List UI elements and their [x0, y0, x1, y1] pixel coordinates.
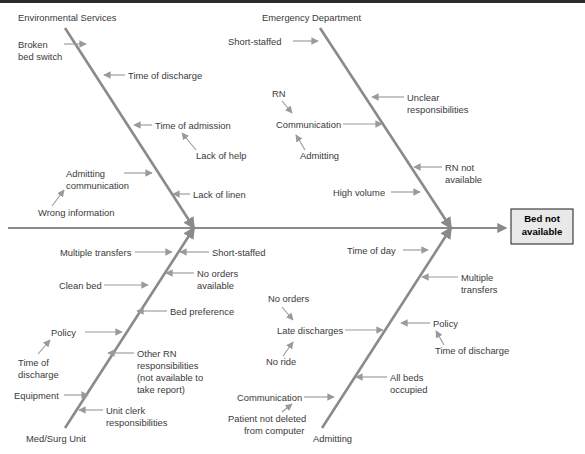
cause-ed-rn: RN [272, 88, 286, 99]
cause-es-admitting-communication-line2: communication [66, 180, 129, 191]
connector-es-lack-of-help [182, 133, 196, 150]
cause-ms-time-of-discharge-line1: Time of [18, 357, 49, 368]
cause-ms-bed-preference: Bed preference [170, 306, 234, 317]
cause-es-wrong-information: Wrong information [38, 207, 114, 218]
cause-ed-unclear-responsibilities-line1: Unclear [407, 92, 439, 103]
cause-ed-high-volume: High volume [333, 187, 385, 198]
cause-ms-multiple-transfers: Multiple transfers [60, 247, 132, 258]
cause-ms-unit-clerk-line1: Unit clerk [106, 405, 145, 416]
cause-ms-policy: Policy [51, 327, 76, 338]
cause-ed-rn-not-available-line1: RN not [445, 162, 475, 173]
connector-ad-patient-not-deleted [282, 404, 292, 412]
fishbone-diagram: Bed not available Environmental Services… [0, 0, 585, 454]
cause-ms-other-rn-line1: Other RN [137, 348, 177, 359]
connector-ed-admitting [296, 135, 305, 150]
effect-label-line2: available [522, 226, 563, 237]
cause-es-broken-bed-switch-line1: Broken [18, 39, 48, 50]
cause-ms-no-orders-available-line1: No orders [197, 268, 238, 279]
cause-ad-policy: Policy [433, 318, 458, 329]
effect-label-line1: Bed not [524, 213, 561, 224]
cause-ad-all-beds-occupied-line1: All beds [390, 372, 424, 383]
cause-ad-patient-not-deleted-line2: from computer [244, 425, 304, 436]
bone-med-surg-unit [65, 228, 194, 428]
connector-ad-no-orders [282, 307, 293, 320]
fishbone-canvas: Bed not available Environmental Services… [0, 0, 585, 454]
category-label-admitting: Admitting [313, 433, 352, 444]
connector-ms-time-of-discharge [38, 340, 50, 354]
cause-ms-other-rn-line4: take report) [137, 384, 185, 395]
cause-ms-unit-clerk-line2: responsibilities [106, 417, 168, 428]
cause-es-lack-of-linen: Lack of linen [193, 189, 246, 200]
cause-ms-equipment: Equipment [14, 390, 59, 401]
cause-es-admitting-communication-line1: Admitting [66, 168, 105, 179]
cause-ed-admitting: Admitting [300, 150, 339, 161]
category-label-emergency-department: Emergency Department [262, 12, 361, 23]
cause-ms-other-rn-line3: (not available to [137, 372, 203, 383]
cause-ad-time-of-day: Time of day [347, 245, 396, 256]
connector-ad-time-of-discharge [436, 331, 444, 345]
cause-ad-no-ride: No ride [266, 356, 296, 367]
cause-ms-no-orders-available-line2: available [197, 280, 234, 291]
cause-ed-short-staffed: Short-staffed [228, 36, 282, 47]
connector-ed-rn [282, 101, 292, 113]
cause-ad-all-beds-occupied-line2: occupied [390, 384, 428, 395]
cause-ad-communication: Communication [237, 392, 302, 403]
cause-ad-patient-not-deleted-line1: Patient not deleted [228, 413, 306, 424]
cause-ms-clean-bed: Clean bed [59, 280, 102, 291]
cause-ad-late-discharges: Late discharges [277, 325, 344, 336]
cause-ad-time-of-discharge: Time of discharge [435, 345, 509, 356]
cause-es-lack-of-help: Lack of help [196, 150, 247, 161]
scan-edge-band [0, 0, 585, 3]
connector-es-wrong-information [52, 190, 64, 206]
category-label-med-surg-unit: Med/Surg Unit [26, 433, 86, 444]
cause-ed-rn-not-available-line2: available [445, 174, 482, 185]
cause-ms-time-of-discharge-line2: discharge [18, 369, 59, 380]
cause-es-time-of-admission: Time of admission [155, 120, 231, 131]
connector-ad-no-ride [283, 342, 293, 356]
cause-ad-multiple-transfers-line2: transfers [461, 284, 498, 295]
cause-ed-communication: Communication [276, 119, 341, 130]
cause-ms-other-rn-line2: responsibilities [137, 360, 199, 371]
cause-es-broken-bed-switch-line2: bed switch [18, 51, 62, 62]
cause-ad-multiple-transfers-line1: Multiple [461, 272, 493, 283]
cause-ed-unclear-responsibilities-line2: responsibilities [407, 104, 469, 115]
cause-ms-short-staffed: Short-staffed [212, 247, 266, 258]
cause-ad-no-orders: No orders [268, 293, 309, 304]
category-label-environmental-services: Environmental Services [18, 12, 117, 23]
cause-es-time-of-discharge: Time of discharge [128, 70, 202, 81]
